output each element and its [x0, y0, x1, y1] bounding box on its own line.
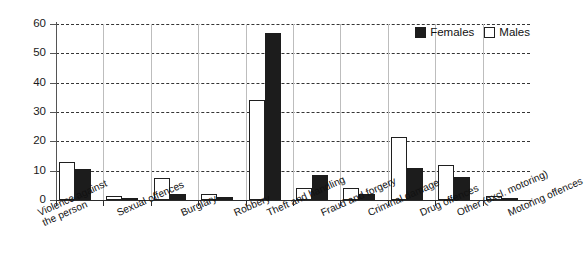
y-tick-label-0: 0: [0, 194, 46, 206]
y-tick-label-20: 20: [0, 136, 46, 148]
y-tick-mark-50: [50, 53, 57, 54]
y-tick-label-50: 50: [0, 48, 46, 60]
category-separator: [435, 24, 436, 200]
category-separator: [388, 24, 389, 200]
bar-group: [103, 24, 150, 200]
bar-group: [435, 24, 482, 200]
x-tick-mark: [340, 200, 341, 206]
bar-group: [56, 24, 103, 200]
y-tick-mark-40: [50, 83, 57, 84]
x-tick-mark: [103, 200, 104, 206]
x-tick-mark: [435, 200, 436, 206]
category-separator: [103, 24, 104, 200]
y-tick-label-30: 30: [0, 106, 46, 118]
bar-females: [265, 33, 281, 200]
x-tick-mark: [388, 200, 389, 206]
y-tick-label-40: 40: [0, 77, 46, 89]
legend-entry: Females: [415, 26, 474, 38]
category-separator: [198, 24, 199, 200]
bar-group: [151, 24, 198, 200]
bar-group: [246, 24, 293, 200]
y-tick-label-10: 10: [0, 165, 46, 177]
x-tick-mark: [198, 200, 199, 206]
x-tick-mark: [151, 200, 152, 206]
y-tick-mark-60: [50, 24, 57, 25]
bar-group: [340, 24, 387, 200]
x-tick-mark: [293, 200, 294, 206]
bar-group: [198, 24, 245, 200]
y-tick-mark-30: [50, 112, 57, 113]
category-separator: [151, 24, 152, 200]
y-tick-mark-10: [50, 171, 57, 172]
x-tick-mark: [56, 200, 57, 206]
filled-square-icon: [415, 27, 426, 38]
y-tick-label-60: 60: [0, 18, 46, 30]
chart-legend: FemalesMales: [415, 26, 530, 38]
category-separator: [293, 24, 294, 200]
bar-group: [293, 24, 340, 200]
legend-entry: Males: [484, 26, 530, 38]
x-axis-labels: Violence against the personSexual offenc…: [0, 206, 540, 275]
x-tick-mark: [246, 200, 247, 206]
legend-label: Males: [499, 26, 530, 38]
legend-label: Females: [430, 26, 474, 38]
y-tick-mark-20: [50, 141, 57, 142]
bar-group: [388, 24, 435, 200]
hollow-square-icon: [484, 27, 495, 38]
plot-area: [56, 24, 530, 200]
bar-males: [249, 100, 265, 200]
category-separator: [246, 24, 247, 200]
category-separator: [483, 24, 484, 200]
x-tick-mark: [483, 200, 484, 206]
bar-group: [483, 24, 530, 200]
